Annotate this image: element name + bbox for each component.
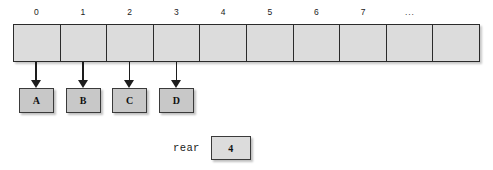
value-box-b[interactable]: B (66, 88, 101, 113)
arrow-head (78, 80, 88, 88)
array-cell-2[interactable] (107, 25, 154, 61)
arrow-stem (82, 62, 84, 82)
arrow-head (124, 80, 134, 88)
rear-value-box[interactable]: 4 (211, 136, 251, 160)
arrow-stem (35, 62, 37, 82)
index-label-7: 7 (340, 6, 387, 18)
value-box-c[interactable]: C (112, 88, 147, 113)
array-cell-8[interactable] (387, 25, 434, 61)
rear-label: rear (173, 142, 200, 154)
value-box-d[interactable]: D (159, 88, 194, 113)
index-label-2: 2 (106, 6, 153, 18)
array-cell-1[interactable] (61, 25, 108, 61)
array-cell-9[interactable] (433, 25, 479, 61)
index-label-0: 0 (13, 6, 60, 18)
array-cell-5[interactable] (247, 25, 294, 61)
index-label-1: 1 (60, 6, 107, 18)
array-cell-6[interactable] (294, 25, 341, 61)
array-strip (13, 24, 480, 62)
index-label-5: 5 (247, 6, 294, 18)
index-label-4: 4 (200, 6, 247, 18)
array-cell-3[interactable] (154, 25, 201, 61)
array-cell-0[interactable] (14, 25, 61, 61)
arrow-head (171, 80, 181, 88)
arrow-stem (176, 62, 178, 82)
index-label-3: 3 (153, 6, 200, 18)
rear-pointer-group: rear 4 (173, 136, 251, 160)
index-label-6: 6 (293, 6, 340, 18)
arrow-stem (129, 62, 131, 82)
arrow-head (31, 80, 41, 88)
diagram-canvas: 0 1 2 3 4 5 6 7 ... A B C (0, 0, 493, 170)
array-cell-4[interactable] (200, 25, 247, 61)
array-cell-7[interactable] (340, 25, 387, 61)
index-label-ellipsis: ... (387, 6, 434, 18)
value-box-a[interactable]: A (19, 88, 54, 113)
